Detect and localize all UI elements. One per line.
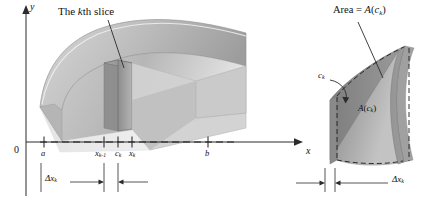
solid-left-cap (40, 104, 62, 141)
x-axis-arrowhead (294, 138, 303, 145)
slice-callout-label: The kth slice (58, 6, 114, 17)
area-prefix: Area = (333, 4, 365, 15)
delta-x-k-label-left: Δxk (45, 174, 57, 184)
a-of-c-k-face-label: A(ck) (358, 104, 376, 114)
figure-canvas: The kth slice y x 0 a xk-1 ck xk b Δxk A… (0, 0, 433, 201)
c-k-point-label: ck (318, 71, 325, 81)
slab-3d-right (330, 22, 414, 165)
origin-label: 0 (14, 145, 19, 155)
tick-label-b: b (205, 149, 209, 158)
slice-front-face (118, 60, 132, 131)
dim-arrowhead-right (99, 180, 105, 185)
delta-x-dimension-left (41, 163, 148, 192)
y-axis-label: y (30, 2, 34, 12)
tick-label-x-k-minus-1: xk-1 (95, 149, 106, 159)
dim-arrowhead-r-right (320, 181, 326, 186)
tick-label-c-k: ck (115, 149, 121, 159)
tick-label-a: a (41, 149, 45, 158)
tick-label-x-k: xk (129, 149, 135, 159)
delta-x-k-label-right: Δxk (392, 175, 404, 185)
solid-3d-left (40, 20, 246, 153)
diagram-vector-layer (0, 0, 433, 201)
dim-arrowhead-r-left (335, 181, 341, 186)
x-axis-label: x (306, 146, 310, 156)
slice-callout-prefix: The (58, 5, 78, 17)
delta-x-dimension-right (296, 168, 388, 192)
slice-callout-suffix: th slice (83, 5, 114, 17)
y-axis-arrowhead (22, 5, 29, 14)
area-equation-label: Area = A(ck) (333, 5, 386, 16)
solid-cut-wall (104, 60, 118, 131)
slab-near-face (330, 96, 337, 164)
dim-arrowhead-left (118, 180, 124, 185)
